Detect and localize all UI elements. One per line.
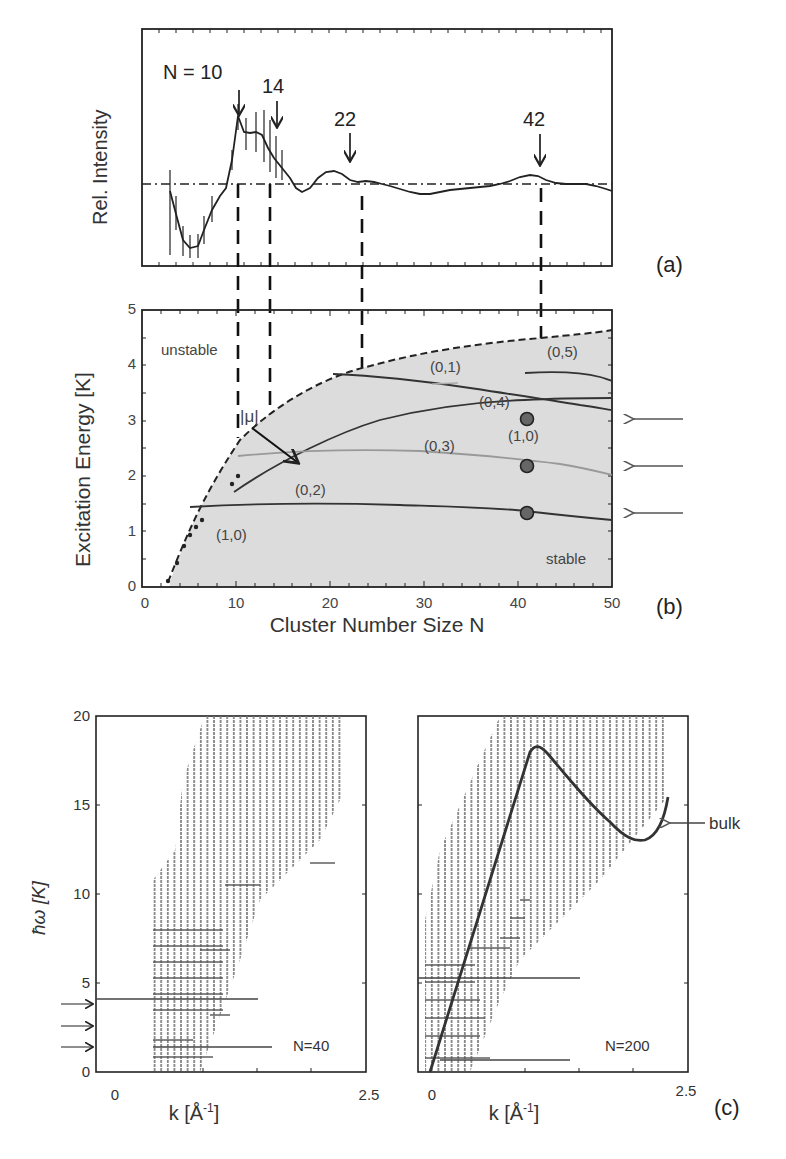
label-0-2: (0,2)	[295, 481, 326, 498]
svg-text:0: 0	[128, 577, 136, 594]
panel-b-yticks: 0 1 2 3 4 5	[128, 300, 136, 594]
label-0-3: (0,3)	[424, 437, 455, 454]
svg-text:15: 15	[73, 796, 90, 813]
error-bars	[170, 104, 282, 258]
label-0-1: (0,1)	[430, 358, 461, 375]
c-right-x1: 2.5	[676, 1082, 697, 1099]
n40-label: N=40	[293, 1037, 329, 1054]
svg-text:1: 1	[128, 522, 136, 539]
mu-label: |μ|	[240, 407, 259, 426]
svg-text:40: 40	[510, 594, 527, 611]
svg-text:20: 20	[73, 707, 90, 724]
svg-text:3: 3	[128, 411, 136, 428]
panel-c-yticks: 0 5 10 15 20	[73, 707, 90, 1080]
peak-label-14: 14	[262, 75, 284, 97]
panel-b-ylabel: Excitation Energy [K]	[71, 372, 94, 567]
label-1-0-upper: (1,0)	[508, 427, 539, 444]
label-0-4: (0,4)	[479, 393, 510, 410]
c-right-xlabel: k [Å-1]	[489, 1101, 540, 1124]
panel-b: unstable stable |μ| (0,1) (0,5) (0,4) (1…	[71, 300, 683, 636]
side-arrows	[634, 419, 683, 513]
n200-label: N=200	[605, 1037, 650, 1054]
svg-text:20: 20	[322, 594, 339, 611]
stable-label: stable	[546, 550, 586, 567]
intensity-curve	[170, 116, 612, 248]
panel-a-label: (a)	[656, 252, 683, 277]
panel-b-xticks: 0 10 20 30 40 50	[141, 594, 621, 611]
svg-text:50: 50	[604, 594, 621, 611]
peak-label-42: 42	[523, 108, 545, 130]
c-left-x1: 2.5	[359, 1086, 380, 1103]
curve-0-1	[432, 383, 458, 384]
peak-arrows	[239, 90, 540, 164]
svg-text:30: 30	[416, 594, 433, 611]
panel-a-ylabel: Rel. Intensity	[89, 109, 111, 225]
peak-label-10: N = 10	[163, 61, 222, 83]
svg-text:10: 10	[73, 885, 90, 902]
panel-c-label: (c)	[714, 1095, 740, 1120]
svg-text:2: 2	[128, 466, 136, 483]
panel-b-label: (b)	[656, 594, 683, 619]
unstable-label: unstable	[161, 341, 218, 358]
c-left-xlabel: k [Å-1]	[169, 1101, 220, 1124]
panel-c-left: 0 5 10 15 20 0 2.5 k [Å-1] N=40 ħω [K]	[28, 707, 379, 1124]
bulk-label: bulk	[709, 814, 741, 833]
panel-b-xlabel: Cluster Number Size N	[270, 613, 485, 636]
c-left-x0: 0	[111, 1086, 119, 1103]
panel-c-right: bulk 0 2.5 k [Å-1] N=200 (c)	[418, 716, 741, 1124]
label-0-5: (0,5)	[547, 343, 578, 360]
c-right-x0: 0	[428, 1086, 436, 1103]
label-1-0: (1,0)	[216, 526, 247, 543]
svg-text:5: 5	[82, 974, 90, 991]
panel-c-ylabel: ħω [K]	[28, 880, 49, 935]
svg-text:0: 0	[82, 1063, 90, 1080]
svg-text:0: 0	[141, 594, 149, 611]
left-arrows	[61, 1004, 92, 1047]
svg-text:5: 5	[128, 300, 136, 317]
stable-region	[170, 330, 612, 587]
spectra-n40	[96, 716, 366, 1072]
figure: N = 10 14 22 42 Rel. Intensity (a)	[0, 0, 786, 1159]
svg-text:10: 10	[228, 594, 245, 611]
svg-text:4: 4	[128, 355, 136, 372]
peak-label-22: 22	[334, 108, 356, 130]
